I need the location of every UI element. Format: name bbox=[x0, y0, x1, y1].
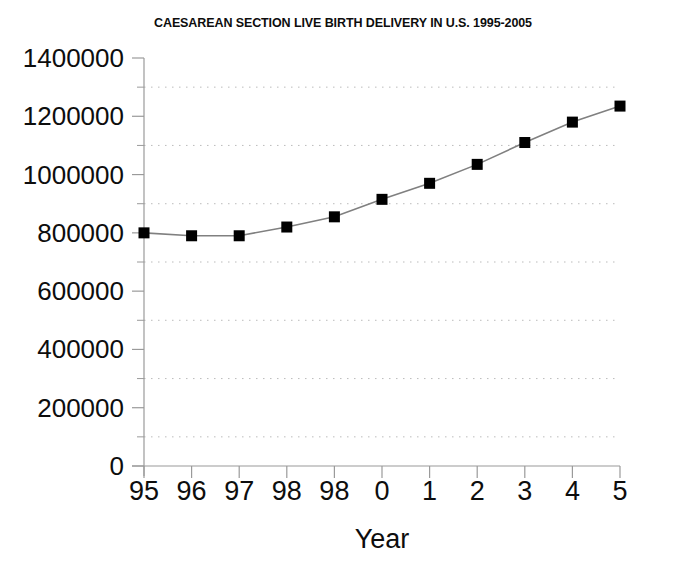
x-axis-tick-label-text: 5 bbox=[590, 478, 650, 505]
data-point-marker bbox=[567, 117, 578, 128]
data-series bbox=[139, 101, 626, 242]
y-axis-tick-label-text: 1400000 bbox=[0, 45, 124, 71]
data-point-marker bbox=[519, 137, 530, 148]
y-axis-tick-label-text: 600000 bbox=[0, 278, 124, 304]
data-point-marker bbox=[281, 222, 292, 233]
y-axis-tick-label-text: 0 bbox=[0, 453, 124, 479]
series-line bbox=[144, 106, 620, 236]
data-point-marker bbox=[472, 159, 483, 170]
data-point-marker bbox=[186, 230, 197, 241]
chart-container: CAESAREAN SECTION LIVE BIRTH DELIVERY IN… bbox=[0, 0, 686, 585]
y-axis-tick-label-text: 1000000 bbox=[0, 162, 124, 188]
y-axis-tick-label-text: 200000 bbox=[0, 395, 124, 421]
y-axis-tick-label-text: 1200000 bbox=[0, 103, 124, 129]
data-point-marker bbox=[139, 227, 150, 238]
gridlines bbox=[144, 87, 620, 437]
y-axis bbox=[132, 58, 144, 476]
x-axis-title: Year bbox=[144, 524, 620, 555]
data-point-marker bbox=[234, 230, 245, 241]
data-point-marker bbox=[615, 101, 626, 112]
y-axis-tick-label-text: 400000 bbox=[0, 336, 124, 362]
data-point-marker bbox=[377, 194, 388, 205]
data-point-marker bbox=[424, 178, 435, 189]
y-axis-tick-label-text: 800000 bbox=[0, 220, 124, 246]
data-point-marker bbox=[329, 211, 340, 222]
